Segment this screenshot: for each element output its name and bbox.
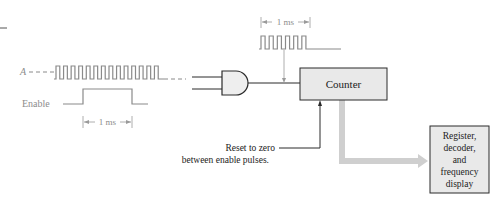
reset-arrow-head-icon [318, 100, 322, 106]
counter-label: Counter [326, 78, 362, 90]
display-line-3: and [453, 155, 467, 165]
signal-enable: Enable [22, 89, 148, 109]
display-line-4: frequency [441, 167, 479, 177]
reset-annotation-line2: between enable pulses. [182, 155, 269, 165]
gated-pulse-train [259, 36, 341, 49]
gated-arrow-head-icon [282, 78, 286, 83]
a-pulse-train [54, 66, 164, 79]
frequency-counter-diagram: A Enable 1 ms 1 ms [0, 0, 501, 208]
data-flow-arrow-head-icon [418, 154, 428, 168]
enable-width-bracket: 1 ms [83, 116, 132, 128]
display-line-1: Register, [443, 131, 477, 141]
counter-block: Counter [300, 68, 387, 100]
data-flow-arrow [339, 100, 428, 168]
display-block: Register, decoder, and frequency display [430, 126, 489, 193]
display-line-2: decoder, [443, 143, 475, 153]
signal-enable-label: Enable [22, 98, 50, 109]
enable-width-label: 1 ms [99, 117, 117, 127]
reset-connection: Reset to zero between enable pulses. [182, 100, 322, 165]
and-gate-icon [222, 71, 248, 95]
display-line-5: display [446, 179, 474, 189]
gated-width-label: 1 ms [277, 17, 295, 27]
signal-a-label: A [19, 66, 27, 77]
enable-pulse [63, 89, 148, 104]
reset-annotation-line1: Reset to zero [225, 143, 275, 153]
signal-a: A [19, 66, 186, 79]
